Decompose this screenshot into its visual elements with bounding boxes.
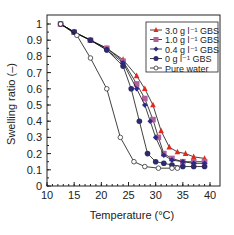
legend: 3.0 g l⁻¹ GBS1.0 g l⁻¹ GBS0.4 g l⁻¹ GBS0… — [146, 22, 219, 74]
y-tick-label: 0.2 — [27, 148, 42, 160]
x-tick-label: 30 — [150, 189, 162, 201]
x-tick-label: 20 — [95, 189, 107, 201]
x-tick-label: 25 — [122, 189, 134, 201]
y-tick-label: 0.6 — [27, 83, 42, 95]
y-tick-label: 1 — [36, 18, 42, 30]
x-tick-label: 40 — [204, 189, 216, 201]
legend-entry: 1.0 g l⁻¹ GBS — [165, 35, 219, 45]
legend-entry: 0.4 g l⁻¹ GBS — [165, 45, 219, 55]
y-tick-label: 0 — [36, 180, 42, 192]
legend-entry: 0 g l⁻¹ GBS — [165, 54, 212, 64]
y-tick-label: 0.9 — [27, 34, 42, 46]
y-tick-label: 0.4 — [27, 115, 42, 127]
legend-entry: 3.0 g l⁻¹ GBS — [165, 26, 219, 36]
y-tick-label: 0.7 — [27, 67, 42, 79]
chart: 1015202530354000.10.20.30.40.50.60.70.80… — [0, 0, 234, 235]
x-tick-label: 10 — [41, 189, 53, 201]
y-tick-label: 0.1 — [27, 164, 42, 176]
legend-entry: Pure water — [165, 64, 209, 74]
x-axis-label: Temperature (°C) — [90, 209, 174, 221]
y-tick-label: 0.8 — [27, 50, 42, 62]
x-tick-label: 35 — [177, 189, 189, 201]
x-tick-label: 15 — [68, 189, 80, 201]
y-tick-label: 0.3 — [27, 131, 42, 143]
y-tick-label: 0.5 — [27, 99, 42, 111]
y-axis-label: Swelling ratio (–) — [5, 63, 17, 145]
